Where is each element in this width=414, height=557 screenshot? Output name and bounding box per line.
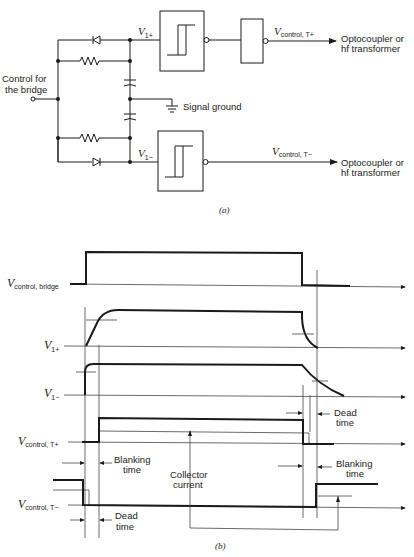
signal-ground-label: Signal ground xyxy=(183,101,242,112)
input-label-2: the bridge xyxy=(5,84,47,95)
dead-time-top-2: time xyxy=(336,417,354,428)
vcontrol-tminus-label: Vcontrol, T− xyxy=(272,145,312,158)
output-bottom-label-2: hf transformer xyxy=(341,167,400,178)
label-vcontrol-bridge: Vcontrol, bridge xyxy=(7,276,59,291)
diode-top-icon xyxy=(93,36,100,44)
schmitt-trigger-bottom xyxy=(158,131,203,191)
output-top-label-2: hf transformer xyxy=(341,43,400,54)
hysteresis-icon xyxy=(165,146,193,177)
waveform-v1plus xyxy=(86,310,318,348)
vcontrol-tplus-label: Vcontrol, T+ xyxy=(274,25,314,38)
blanking-right-2: time xyxy=(346,468,364,479)
dead-time-bottom-1: Dead xyxy=(115,510,138,521)
waveform-vcontrol-bridge xyxy=(70,252,350,286)
caption-b: (b) xyxy=(215,541,226,551)
hysteresis-icon xyxy=(167,25,195,55)
label-v1minus: V1− xyxy=(44,386,59,401)
blanking-left-2: time xyxy=(123,464,141,475)
caption-a: (a) xyxy=(219,205,230,215)
label-v1plus: V1+ xyxy=(44,338,59,353)
resistor-top-icon xyxy=(80,57,99,65)
v1plus-label: V1+ xyxy=(138,25,153,39)
input-label-1: Control for xyxy=(2,73,46,84)
waveform-v1minus xyxy=(85,364,344,396)
v1minus-label: V1− xyxy=(138,147,153,161)
resistor-bottom-icon xyxy=(80,134,99,142)
diode-bottom-icon xyxy=(93,158,100,166)
label-vcontrol-tplus: Vcontrol, T+ xyxy=(18,434,58,448)
collector-2: current xyxy=(173,479,203,490)
bridge-control-diagram: Control for the bridge V1+ V1− Signal gr… xyxy=(0,0,414,557)
waveform-vcontrol-tminus xyxy=(53,480,378,507)
timing-diagram xyxy=(53,252,405,538)
dead-time-bottom-2: time xyxy=(116,521,134,532)
schmitt-trigger-top xyxy=(160,11,204,71)
input-terminal-icon xyxy=(31,97,35,101)
buffer-block xyxy=(241,19,263,63)
label-vcontrol-tminus: Vcontrol, T− xyxy=(18,497,58,511)
